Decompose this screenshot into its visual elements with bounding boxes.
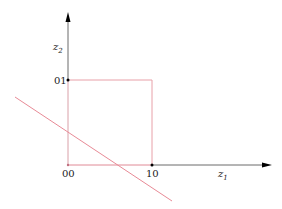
x-axis-label: z1 <box>217 168 228 182</box>
y-axis-label: z2 <box>52 41 63 55</box>
decision-line <box>15 97 172 201</box>
x-axis-arrow-icon <box>262 163 272 168</box>
label-10: 10 <box>146 168 159 179</box>
label-01: 01 <box>54 75 67 86</box>
label-00: 00 <box>62 168 75 179</box>
point-10 <box>151 164 154 167</box>
y-axis-arrow-icon <box>66 12 71 22</box>
point-00 <box>67 164 69 166</box>
point-01 <box>67 79 70 82</box>
diagram-canvas: 01 00 10 z2 z1 <box>0 0 282 209</box>
unit-square <box>68 80 152 165</box>
